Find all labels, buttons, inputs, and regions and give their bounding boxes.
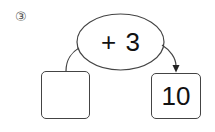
problem-number: ③ [15, 10, 27, 23]
input-answer-box[interactable] [41, 71, 90, 119]
diagram-canvas: ③ + 3 10 [0, 0, 215, 132]
arrowhead-icon [173, 65, 180, 73]
output-arrow-line [162, 45, 176, 66]
output-value-box: 10 [151, 73, 201, 119]
operation-label: + 3 [78, 24, 164, 60]
